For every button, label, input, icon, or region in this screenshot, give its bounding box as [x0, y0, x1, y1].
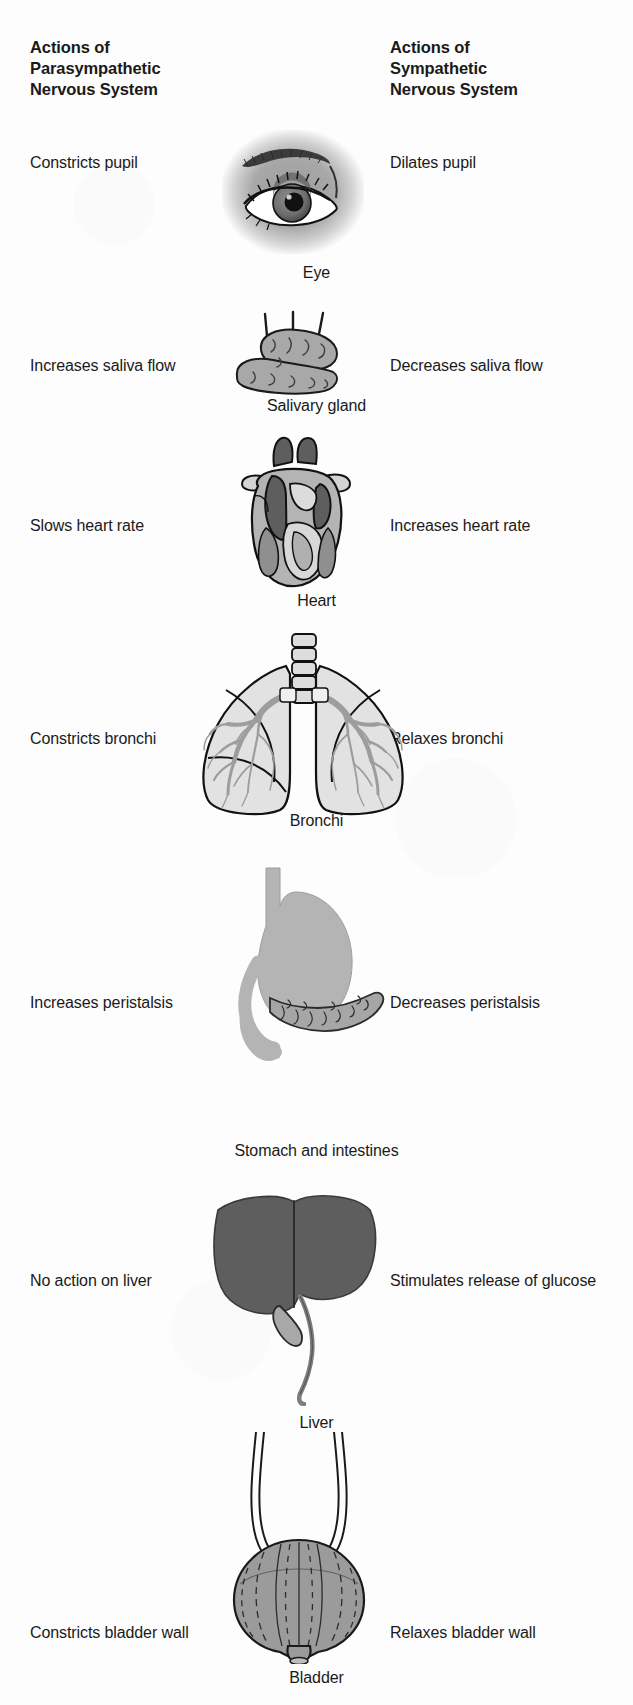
row-salivary-parasympathetic-label: Increases saliva flow — [30, 355, 215, 377]
header-line-1: Actions of — [30, 37, 240, 58]
salivary-gland-illustration — [215, 310, 375, 402]
organ-label-eye: Eye — [0, 263, 633, 283]
row-stomach-sympathetic-label: Decreases peristalsis — [390, 992, 600, 1014]
row-stomach-parasympathetic-label: Increases peristalsis — [30, 992, 215, 1014]
row-salivary-sympathetic-label: Decreases saliva flow — [390, 355, 600, 377]
heart-illustration — [228, 432, 368, 594]
organ-label-salivary-gland: Salivary gland — [0, 396, 633, 416]
column-header-sympathetic: Actions of Sympathetic Nervous System — [390, 37, 600, 100]
row-bladder-sympathetic-label: Relaxes bladder wall — [390, 1622, 600, 1644]
header-line-3: Nervous System — [390, 79, 600, 100]
organ-label-liver: Liver — [0, 1413, 633, 1433]
row-liver-sympathetic-label: Stimulates release of glucose — [390, 1270, 600, 1292]
header-line-2: Parasympathetic — [30, 58, 240, 79]
organ-label-bladder: Bladder — [0, 1668, 633, 1688]
autonomic-nervous-system-diagram: Actions of Parasympathetic Nervous Syste… — [0, 0, 633, 1705]
lungs-illustration — [168, 632, 438, 824]
row-bladder-parasympathetic-label: Constricts bladder wall — [30, 1622, 215, 1644]
row-eye-sympathetic-label: Dilates pupil — [390, 152, 600, 174]
header-line-1: Actions of — [390, 37, 600, 58]
row-heart-sympathetic-label: Increases heart rate — [390, 515, 600, 537]
column-header-parasympathetic: Actions of Parasympathetic Nervous Syste… — [30, 37, 240, 100]
organ-label-stomach-and-intestines: Stomach and intestines — [0, 1141, 633, 1161]
row-liver-parasympathetic-label: No action on liver — [30, 1270, 215, 1292]
row-eye-parasympathetic-label: Constricts pupil — [30, 152, 215, 174]
header-line-2: Sympathetic — [390, 58, 600, 79]
header-line-3: Nervous System — [30, 79, 240, 100]
eye-illustration — [218, 128, 368, 256]
row-heart-parasympathetic-label: Slows heart rate — [30, 515, 215, 537]
organ-label-bronchi: Bronchi — [0, 811, 633, 831]
stomach-illustration — [200, 866, 410, 1066]
bladder-illustration — [224, 1432, 374, 1664]
liver-illustration — [208, 1188, 388, 1406]
organ-label-heart: Heart — [0, 591, 633, 611]
